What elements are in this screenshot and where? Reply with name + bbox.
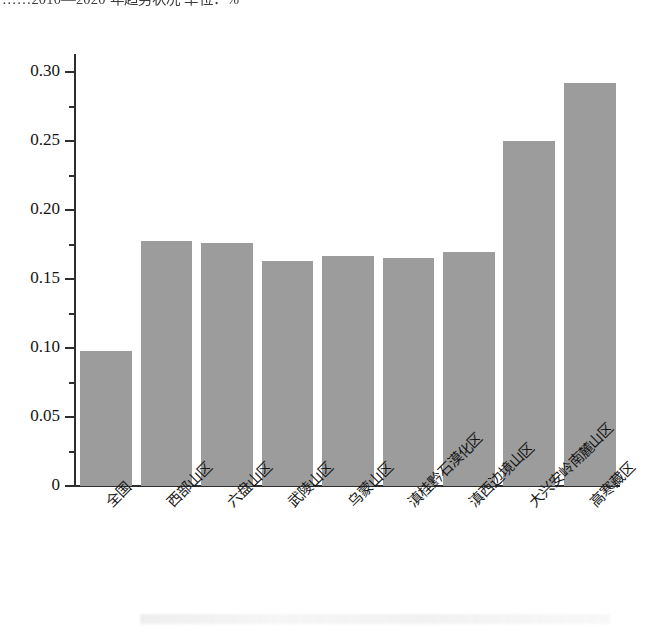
y-tick-label: 0.25 [0,130,60,150]
bar-chart-figure: 00.050.100.150.200.250.30 全国西部山区六盘山区武陵山区… [0,0,649,644]
bar[interactable] [201,243,253,486]
y-tick-label: 0.15 [0,268,60,288]
y-tick-minor [69,175,75,177]
y-tick-minor [69,313,75,315]
y-tick-major [65,347,75,349]
y-tick-major [65,209,75,211]
plot-area [76,55,620,486]
bar[interactable] [262,261,314,486]
y-tick-major [65,278,75,280]
bar[interactable] [503,141,555,486]
bar[interactable] [383,258,435,486]
y-tick-major [65,416,75,418]
y-tick-major [65,485,75,487]
y-tick-major [65,71,75,73]
page-smudge-artifact [140,614,610,624]
y-tick-label: 0 [0,475,60,495]
y-tick-label: 0.20 [0,199,60,219]
y-tick-label: 0.05 [0,406,60,426]
y-tick-minor [69,106,75,108]
bar[interactable] [80,351,132,486]
y-tick-major [65,140,75,142]
y-tick-label: 0.30 [0,61,60,81]
bar[interactable] [322,256,374,486]
y-tick-minor [69,451,75,453]
bar[interactable] [141,241,193,486]
y-tick-minor [69,244,75,246]
y-tick-minor [69,382,75,384]
y-tick-label: 0.10 [0,337,60,357]
